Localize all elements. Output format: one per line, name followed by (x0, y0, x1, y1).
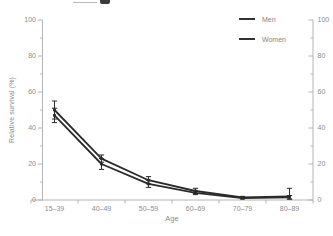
y-tick-label: 60 (28, 88, 36, 95)
women-marker (147, 182, 150, 185)
right-tick-label: 0 (318, 196, 322, 203)
x-tick-label: 15–39 (45, 205, 65, 212)
y-tick-label: 80 (28, 52, 36, 59)
y-tick-label: 40 (28, 124, 36, 131)
legend-item-men: Men (239, 9, 286, 29)
x-tick-label: 70–79 (233, 205, 253, 212)
women-line-swatch (239, 38, 255, 40)
y-tick-label: 100 (24, 16, 36, 23)
right-tick-label: 60 (318, 88, 326, 95)
x-tick-label: 40–49 (92, 205, 112, 212)
y-axis-title: Relative survival (%) (8, 77, 15, 143)
x-tick-label: 80–89 (280, 205, 300, 212)
x-tick-label: 60–69 (186, 205, 206, 212)
women-marker (194, 191, 197, 194)
women-marker (100, 163, 103, 166)
x-axis-title: Age (165, 214, 178, 223)
women-marker (288, 196, 291, 199)
y-tick-label: 20 (28, 160, 36, 167)
men-line-swatch (239, 18, 255, 20)
right-tick-label: 80 (318, 52, 326, 59)
legend-label-women: Women (262, 36, 286, 43)
men-line (55, 110, 290, 197)
right-tick-label: 20 (318, 160, 326, 167)
legend-item-women: Women (239, 29, 286, 49)
women-marker (241, 197, 244, 200)
legend: Men Women (239, 9, 286, 49)
y-tick-label: 0 (32, 196, 36, 203)
right-tick-label: 100 (318, 16, 330, 23)
x-tick-label: 50–59 (139, 205, 159, 212)
women-marker (53, 114, 56, 117)
relative-survival-chart: 00202040406060808010010015–3940–4950–596… (0, 0, 333, 236)
legend-label-men: Men (262, 16, 276, 23)
right-tick-label: 40 (318, 124, 326, 131)
